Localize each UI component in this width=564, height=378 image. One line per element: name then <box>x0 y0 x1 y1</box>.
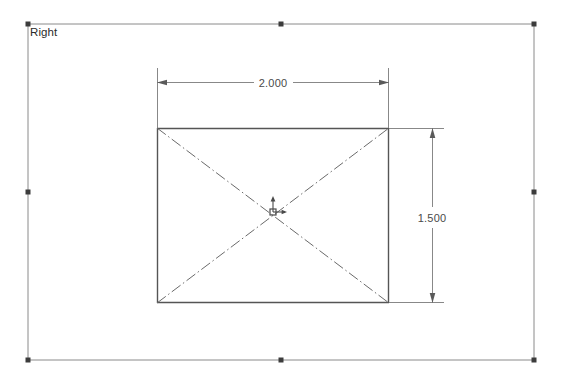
width-dimension-group[interactable]: 2.000 <box>157 68 389 128</box>
cad-drawing-canvas[interactable]: 2.000 1.500 Right <box>0 0 564 378</box>
origin-x-axis-arrow-icon <box>282 210 287 215</box>
view-orientation-label: Right <box>30 26 57 38</box>
handle-mid-left[interactable] <box>26 190 31 195</box>
selection-handles-group <box>26 22 537 363</box>
handle-top-mid[interactable] <box>279 22 284 27</box>
origin-marker[interactable] <box>270 196 287 215</box>
handle-mid-right[interactable] <box>532 190 537 195</box>
height-arrow-bottom-icon <box>430 293 436 303</box>
sheet-border-group <box>28 24 534 360</box>
height-dimension-group[interactable]: 1.500 <box>389 128 446 303</box>
cad-sketch-svg[interactable]: 2.000 1.500 <box>0 0 564 378</box>
handle-bottom-left[interactable] <box>26 358 31 363</box>
handle-bottom-right[interactable] <box>532 358 537 363</box>
height-dimension-value[interactable]: 1.500 <box>418 212 447 224</box>
width-dimension-value[interactable]: 2.000 <box>259 77 288 89</box>
origin-y-axis-arrow-icon <box>271 196 276 202</box>
handle-bottom-mid[interactable] <box>279 358 284 363</box>
height-arrow-top-icon <box>430 128 436 138</box>
width-arrow-left-icon <box>157 80 167 86</box>
width-arrow-right-icon <box>379 80 389 86</box>
handle-top-right[interactable] <box>532 22 537 27</box>
